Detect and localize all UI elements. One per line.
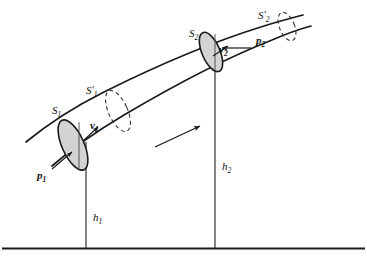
label-v1: v1: [90, 119, 99, 134]
label-s1-subscript: 1: [58, 110, 62, 119]
svg-text:S′2: S′2: [258, 9, 270, 24]
figure-root: S1 S′1 S2 S′2 p1: [0, 0, 367, 261]
svg-text:h1: h1: [93, 211, 102, 226]
flow-tube-diagram: S1 S′1 S2 S′2 p1: [0, 0, 367, 261]
label-h2: h2: [222, 160, 232, 175]
label-h1: h1: [93, 211, 102, 226]
label-p2-subscript: 2: [261, 40, 266, 49]
svg-text:S1: S1: [52, 104, 61, 119]
label-h2-subscript: 2: [228, 166, 232, 175]
shaded-cross-section-s1: [52, 116, 94, 174]
label-v1-subscript: 1: [95, 125, 99, 134]
svg-text:v1: v1: [90, 119, 99, 134]
label-h1-subscript: 1: [99, 217, 103, 226]
flow-direction-arrow: [155, 126, 200, 147]
svg-text:p1: p1: [36, 169, 46, 184]
label-s2: S2: [189, 27, 199, 42]
label-s1-prime: S′1: [86, 84, 97, 99]
label-s1: S1: [52, 104, 61, 119]
label-s2-subscript: 2: [195, 33, 199, 42]
svg-text:S′1: S′1: [86, 84, 97, 99]
label-p1-subscript: 1: [43, 175, 47, 184]
label-p1: p1: [36, 169, 46, 184]
label-s1-prime-subscript: 1: [94, 90, 98, 99]
label-v2-subscript: 2: [223, 49, 228, 58]
svg-text:h2: h2: [222, 160, 232, 175]
tube-lower-wall: [52, 26, 311, 166]
label-s2-prime-subscript: 2: [266, 15, 270, 24]
label-s2-prime: S′2: [258, 9, 270, 24]
svg-text:S2: S2: [189, 27, 199, 42]
